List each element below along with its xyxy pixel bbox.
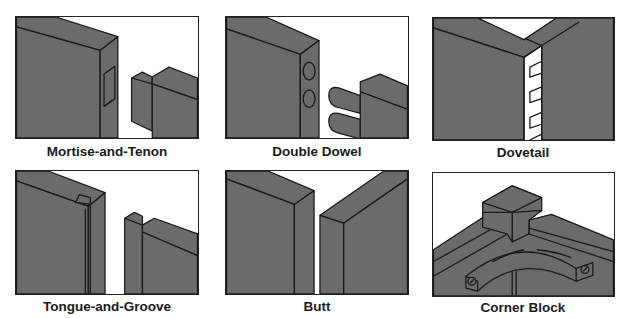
corner-block-illustration bbox=[432, 172, 615, 297]
tongue-and-groove-label: Tongue-and-Groove bbox=[43, 299, 171, 314]
double-dowel-drawing bbox=[226, 17, 408, 138]
dovetail-illustration bbox=[432, 17, 615, 141]
tongue-and-groove-illustration bbox=[15, 170, 199, 295]
tongue-and-groove-drawing bbox=[16, 171, 198, 294]
butt-label: Butt bbox=[304, 299, 331, 314]
mortise-and-tenon-drawing bbox=[16, 17, 198, 138]
butt-joint-drawing bbox=[226, 171, 408, 294]
mortise-and-tenon-label: Mortise-and-Tenon bbox=[47, 144, 168, 159]
double-dowel-illustration bbox=[225, 16, 409, 139]
corner-block-drawing bbox=[433, 173, 614, 296]
corner-block-label: Corner Block bbox=[481, 300, 566, 315]
mortise-and-tenon-illustration bbox=[15, 16, 199, 139]
double-dowel-label: Double Dowel bbox=[272, 144, 361, 159]
dovetail-label: Dovetail bbox=[497, 145, 550, 160]
dovetail-drawing bbox=[433, 18, 614, 140]
butt-joint-illustration bbox=[225, 170, 409, 295]
